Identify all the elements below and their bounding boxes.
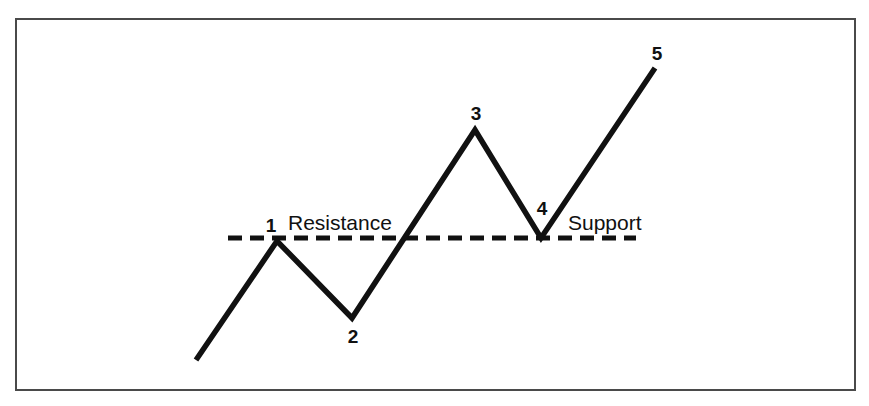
resistance-label: Resistance: [288, 211, 392, 234]
chart-background: [0, 0, 869, 406]
wave-point-label-1: 1: [266, 215, 277, 236]
wave-point-label-2: 2: [348, 326, 359, 347]
wave-point-label-3: 3: [471, 103, 482, 124]
price-chart-svg: 12345 ResistanceSupport: [0, 0, 869, 406]
wave-point-label-5: 5: [652, 43, 663, 64]
wave-point-label-4: 4: [537, 198, 548, 219]
support-label: Support: [568, 211, 642, 234]
chart-figure: 12345 ResistanceSupport: [0, 0, 869, 406]
